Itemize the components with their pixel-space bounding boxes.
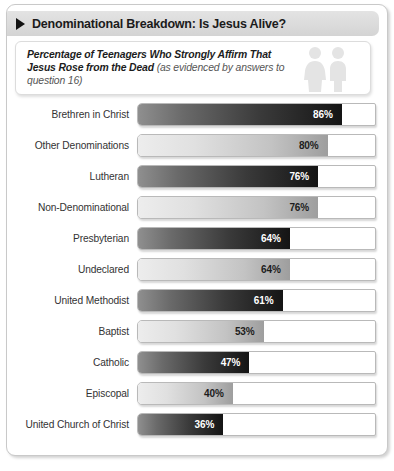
bar-label: Brethren in Christ [7, 103, 129, 126]
bar-track: 86% [137, 103, 376, 126]
bar-value: 64% [261, 233, 290, 244]
bar-label: Other Denominations [7, 134, 129, 157]
bar-label: Episcopal [7, 382, 129, 405]
bar-value: 40% [204, 388, 233, 399]
chart-row: Other Denominations80% [7, 134, 388, 165]
chart-row: Lutheran76% [7, 165, 388, 196]
bar-label: Undeclared [7, 258, 129, 281]
bar-value: 76% [289, 202, 318, 213]
chart-row: Non-Denominational76% [7, 196, 388, 227]
bar-track: 36% [137, 413, 376, 436]
bar-label: United Church of Christ [7, 413, 129, 436]
bar-fill: 76% [138, 166, 318, 187]
bar-value: 53% [235, 326, 264, 337]
bar-value: 86% [313, 109, 342, 120]
bar-track: 47% [137, 351, 376, 374]
bar-value: 64% [261, 264, 290, 275]
bar-track: 61% [137, 289, 376, 312]
bar-label: Presbyterian [7, 227, 129, 250]
bar-fill: 47% [138, 352, 249, 373]
bar-label: Non-Denominational [7, 196, 129, 219]
chart-row: United Methodist61% [7, 289, 388, 320]
bar-fill: 64% [138, 228, 290, 249]
bar-fill: 64% [138, 259, 290, 280]
bar-chart: Brethren in Christ86%Other Denominations… [7, 103, 388, 444]
bar-fill: 86% [138, 104, 342, 125]
two-people-icon [298, 46, 354, 96]
bar-fill: 61% [138, 290, 283, 311]
bar-label: Lutheran [7, 165, 129, 188]
bar-fill: 76% [138, 197, 318, 218]
bar-value: 47% [221, 357, 250, 368]
bar-track: 40% [137, 382, 376, 405]
bar-fill: 40% [138, 383, 233, 404]
bar-track: 80% [137, 134, 376, 157]
bar-value: 76% [289, 171, 318, 182]
bar-track: 64% [137, 258, 376, 281]
subtitle-panel: Percentage of Teenagers Who Strongly Aff… [15, 41, 371, 95]
chart-card: Denominational Breakdown: Is Jesus Alive… [6, 4, 388, 456]
chart-row: Baptist53% [7, 320, 388, 351]
bar-fill: 80% [138, 135, 328, 156]
chart-row: Episcopal40% [7, 382, 388, 413]
chart-row: United Church of Christ36% [7, 413, 388, 444]
bar-fill: 36% [138, 414, 223, 435]
page-title: Denominational Breakdown: Is Jesus Alive… [32, 17, 286, 31]
card-header: Denominational Breakdown: Is Jesus Alive… [7, 11, 379, 36]
bar-value: 80% [299, 140, 328, 151]
bar-track: 76% [137, 165, 376, 188]
bar-label: Baptist [7, 320, 129, 343]
chart-row: Undeclared64% [7, 258, 388, 289]
chart-row: Presbyterian64% [7, 227, 388, 258]
bar-track: 64% [137, 227, 376, 250]
bar-track: 76% [137, 196, 376, 219]
bar-value: 36% [195, 419, 224, 430]
chart-row: Brethren in Christ86% [7, 103, 388, 134]
bar-value: 61% [254, 295, 283, 306]
chart-row: Catholic47% [7, 351, 388, 382]
bar-label: United Methodist [7, 289, 129, 312]
chart-subtitle: Percentage of Teenagers Who Strongly Aff… [27, 48, 285, 88]
bar-track: 53% [137, 320, 376, 343]
bar-label: Catholic [7, 351, 129, 374]
bar-fill: 53% [138, 321, 264, 342]
triangle-right-icon[interactable] [16, 18, 25, 30]
